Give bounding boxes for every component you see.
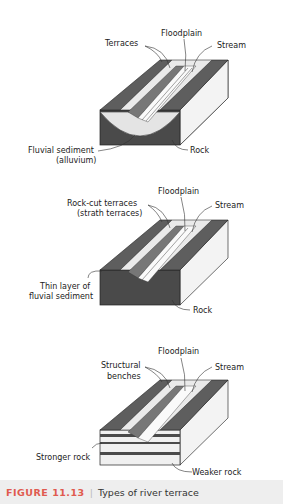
label-rock-cut-terraces: Rock-cut terraces bbox=[67, 199, 137, 209]
figure-title: Types of river terrace bbox=[98, 487, 199, 498]
label-stream: Stream bbox=[217, 41, 246, 51]
label-rock: Rock bbox=[193, 306, 212, 316]
label-benches: benches bbox=[107, 372, 141, 382]
label-floodplain: Floodplain bbox=[158, 347, 199, 357]
caption-separator: | bbox=[90, 487, 93, 498]
label-fluvial-sediment: Fluvial sediment bbox=[28, 146, 94, 156]
fill-terrace-block-diagram bbox=[0, 0, 283, 160]
label-thin-layer: Thin layer of bbox=[40, 282, 90, 292]
strath-terrace-block-diagram bbox=[0, 160, 283, 330]
label-structural: Structural bbox=[101, 361, 141, 371]
label-stream: Stream bbox=[215, 201, 244, 211]
label-strath-terraces: (strath terraces) bbox=[77, 209, 142, 219]
panel-fill-terraces: Terraces Floodplain Stream Fluvial sedim… bbox=[0, 0, 283, 160]
label-fluvial-sediment: fluvial sediment bbox=[29, 292, 93, 302]
label-terraces: Terraces bbox=[105, 39, 138, 49]
label-rock: Rock bbox=[190, 146, 209, 156]
panel-structural-benches: Structural benches Floodplain Stream Str… bbox=[0, 330, 283, 480]
figure-number: FIGURE 11.13 bbox=[6, 487, 85, 498]
label-weaker-rock: Weaker rock bbox=[192, 468, 241, 478]
label-stronger-rock: Stronger rock bbox=[36, 453, 90, 463]
figure-caption: FIGURE 11.13 | Types of river terrace bbox=[0, 480, 283, 504]
panel-strath-terraces: Rock-cut terraces (strath terraces) Floo… bbox=[0, 160, 283, 330]
label-floodplain: Floodplain bbox=[158, 187, 199, 197]
label-floodplain: Floodplain bbox=[161, 29, 202, 39]
label-stream: Stream bbox=[215, 363, 244, 373]
